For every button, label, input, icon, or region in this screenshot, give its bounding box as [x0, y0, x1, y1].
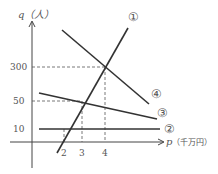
tick-y-50: 50 — [13, 96, 25, 106]
tick-x-2: 2 — [61, 148, 67, 158]
y-axis-label: q（人） — [18, 9, 54, 20]
tick-x-4: 4 — [102, 148, 108, 158]
line-4 — [62, 30, 149, 104]
tick-y-10: 10 — [13, 124, 25, 134]
line-1 — [57, 28, 128, 153]
line-4-label: ④ — [151, 87, 162, 101]
chart: q（人） p （千万円） 300 50 10 2 3 4 ① ④ ③ ② — [0, 0, 218, 174]
line-2-label: ② — [164, 122, 175, 136]
line-1-label: ① — [128, 10, 139, 24]
tick-y-300: 300 — [10, 62, 27, 72]
x-axis-unit: （千万円） — [172, 137, 212, 147]
line-3 — [39, 93, 157, 119]
line-3-label: ③ — [157, 106, 168, 120]
tick-x-3: 3 — [79, 148, 85, 158]
